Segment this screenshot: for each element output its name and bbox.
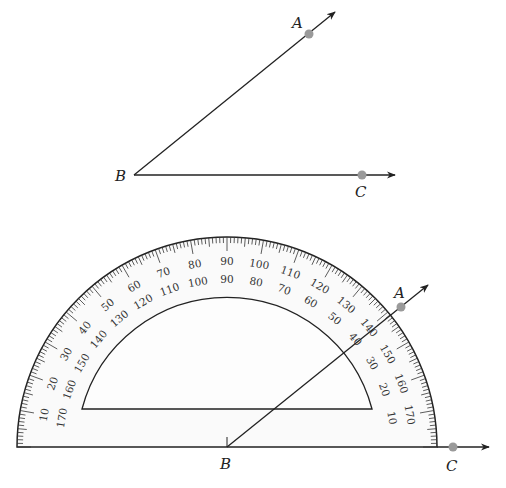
label-b-protractor: B (219, 455, 231, 473)
inner-label-90: 90 (220, 273, 233, 285)
label-c-protractor: C (446, 457, 458, 475)
top-angle: A B C (114, 12, 395, 201)
outer-label-10: 10 (37, 407, 51, 422)
label-b: B (114, 167, 126, 185)
point-a (305, 30, 314, 39)
point-c-protractor (449, 443, 458, 452)
inner-label-80: 80 (249, 274, 264, 288)
inner-label-10: 10 (385, 410, 399, 425)
label-a: A (290, 14, 303, 32)
protractor: 1020304050607080901001101201301401501601… (17, 237, 437, 447)
point-c (358, 171, 367, 180)
label-a-protractor: A (392, 284, 405, 302)
label-c: C (355, 183, 367, 201)
outer-label-80: 80 (187, 257, 202, 271)
point-a-protractor (397, 303, 406, 312)
angle-diagram: A B C 1020304050607080901001101201301401… (0, 0, 506, 488)
ray-ba (134, 12, 335, 175)
outer-label-90: 90 (220, 255, 233, 267)
